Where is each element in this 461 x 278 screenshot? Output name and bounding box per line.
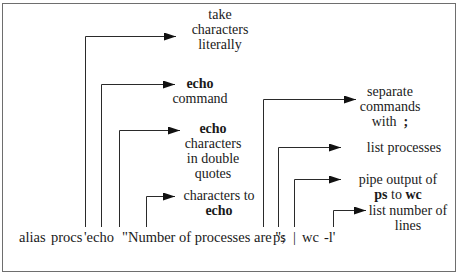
label-line: pipe output of [358, 172, 438, 187]
label-pipe-output: pipe output of ps to wc [358, 172, 438, 202]
label-line: quotes [180, 166, 246, 181]
label-line: with [372, 114, 397, 129]
arrow-separate [264, 100, 357, 228]
token-ps: ps [273, 229, 286, 246]
label-bold: echo [199, 121, 226, 136]
arrow-literal [86, 37, 177, 228]
label-bold: ; [404, 114, 409, 129]
label-line: to [388, 187, 406, 202]
token-l-flag: -l' [324, 229, 335, 246]
label-line: commands [356, 99, 424, 114]
label-list-processes: list processes [361, 140, 447, 155]
label-line: characters to [181, 188, 257, 203]
label-take-characters-literally: take characters literally [175, 7, 265, 52]
label-echo-double-quotes: echo characters in double quotes [180, 121, 246, 181]
token-pipe: | [293, 229, 296, 246]
label-line: list number of [366, 203, 450, 218]
label-bold: echo [205, 203, 232, 218]
label-bold: echo [186, 76, 213, 91]
token-procs: procs [51, 229, 82, 246]
label-characters-to-echo: characters to echo [181, 188, 257, 218]
label-separate-commands: separate commands with ; [356, 84, 424, 129]
token-quoted-string: "Number of processes are "; [122, 229, 285, 246]
label-bold: wc [405, 187, 421, 202]
arrow-list-processes [279, 148, 342, 228]
label-line: command [170, 91, 230, 106]
label-line: list processes [361, 140, 447, 155]
token-echo: 'echo [84, 229, 114, 246]
label-line: separate [356, 84, 424, 99]
alias-command-line: alias procs 'echo "Number of processes a… [0, 229, 461, 278]
label-echo-command: echo command [170, 76, 230, 106]
label-bold: ps [374, 187, 387, 202]
arrow-double-quotes [120, 131, 181, 228]
arrow-chars-to-echo [147, 197, 176, 228]
arrow-list-lines [334, 211, 367, 228]
arrow-echo-command [102, 85, 176, 228]
token-wc: wc [302, 229, 319, 246]
label-line: characters [175, 22, 265, 37]
label-line: characters [180, 136, 246, 151]
label-line: literally [175, 37, 265, 52]
token-alias: alias [19, 229, 46, 246]
arrow-pipe [295, 180, 342, 228]
label-line: take [175, 7, 265, 22]
label-line: in double [180, 151, 246, 166]
